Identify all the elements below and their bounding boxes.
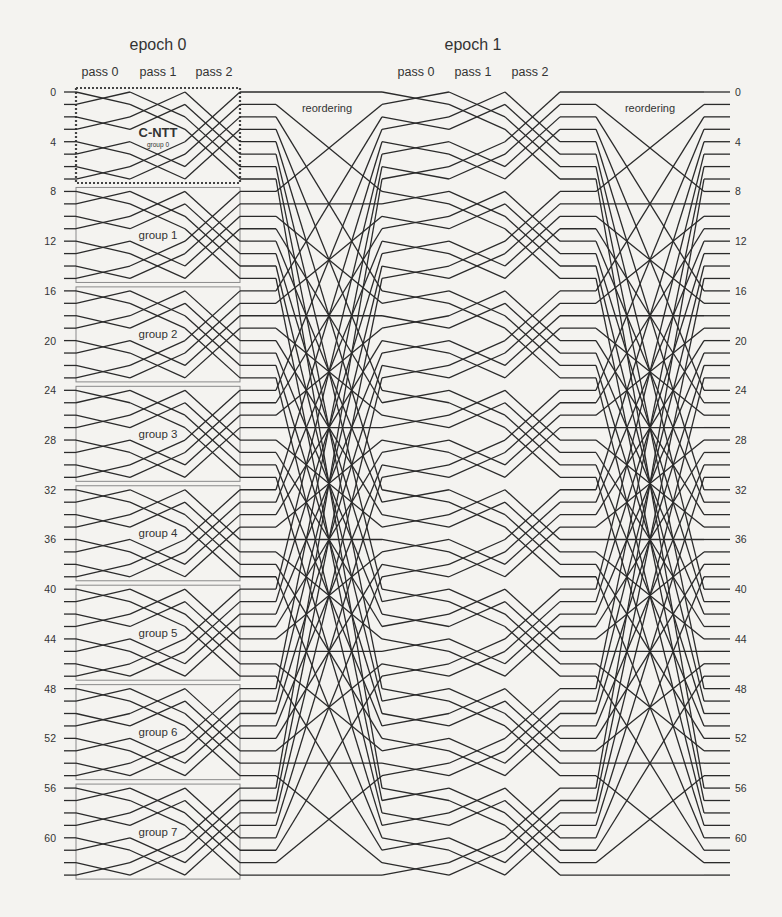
reordering-1-label: reordering	[302, 102, 352, 114]
epoch-1-pass-1-label: pass 1	[455, 65, 492, 79]
right-axis-tick: 36	[735, 533, 747, 545]
left-axis-tick: 32	[44, 484, 56, 496]
right-axis-tick: 4	[735, 136, 741, 148]
epoch-0-pass-1-label: pass 1	[140, 65, 177, 79]
right-axis-tick: 8	[735, 185, 741, 197]
group-1-label: group 1	[138, 229, 177, 241]
group-2-label: group 2	[138, 328, 177, 340]
left-axis-tick: 12	[44, 235, 56, 247]
left-axis-tick: 40	[44, 583, 56, 595]
right-axis-tick: 52	[735, 732, 747, 744]
epoch-0-pass-0-label: pass 0	[82, 65, 119, 79]
right-axis-tick: 56	[735, 782, 747, 794]
right-axis: 04812162024283236404448525660	[735, 86, 747, 844]
left-axis-tick: 4	[50, 136, 56, 148]
left-axis-tick: 24	[44, 384, 56, 396]
right-axis-tick: 60	[735, 832, 747, 844]
group-4-label: group 4	[138, 527, 178, 539]
c-ntt-label: C-NTT	[139, 125, 178, 140]
left-axis-tick: 8	[50, 185, 56, 197]
left-axis-tick: 56	[44, 782, 56, 794]
left-axis-tick: 36	[44, 533, 56, 545]
left-axis-tick: 44	[44, 633, 56, 645]
left-axis-tick: 60	[44, 832, 56, 844]
group-6-label: group 6	[138, 726, 177, 738]
right-axis-tick: 28	[735, 434, 747, 446]
epoch-1-label: epoch 1	[445, 36, 502, 53]
right-axis-tick: 0	[735, 86, 741, 98]
group-labels: group 0group 1group 2group 3group 4group…	[138, 141, 178, 838]
reordering-2-label: reordering	[625, 102, 675, 114]
left-axis-tick: 52	[44, 732, 56, 744]
left-axis-tick: 20	[44, 335, 56, 347]
group-7-label: group 7	[138, 826, 177, 838]
labels: epoch 0 pass 0 pass 1 pass 2 epoch 1 pas…	[82, 36, 675, 140]
left-axis-tick: 48	[44, 683, 56, 695]
right-axis-tick: 20	[735, 335, 747, 347]
right-axis-tick: 32	[735, 484, 747, 496]
right-axis-tick: 24	[735, 384, 747, 396]
group-5-label: group 5	[138, 627, 177, 639]
right-axis-tick: 48	[735, 683, 747, 695]
wires	[64, 92, 730, 875]
left-axis-tick: 16	[44, 285, 56, 297]
right-axis-tick: 40	[735, 583, 747, 595]
epoch-1-pass-0-label: pass 0	[398, 65, 435, 79]
c-ntt-dataflow-diagram: epoch 0 pass 0 pass 1 pass 2 epoch 1 pas…	[0, 0, 782, 917]
right-axis-tick: 12	[735, 235, 747, 247]
left-axis-tick: 28	[44, 434, 56, 446]
epoch-0-label: epoch 0	[130, 36, 187, 53]
epoch-1-pass-2-label: pass 2	[512, 65, 549, 79]
right-axis-tick: 16	[735, 285, 747, 297]
epoch-0-pass-2-label: pass 2	[196, 65, 233, 79]
right-axis-tick: 44	[735, 633, 747, 645]
left-axis: 04812162024283236404448525660	[44, 86, 56, 844]
group-boxes	[76, 88, 240, 879]
group-3-label: group 3	[138, 428, 177, 440]
left-axis-tick: 0	[50, 86, 56, 98]
group-0-label: group 0	[147, 141, 169, 149]
